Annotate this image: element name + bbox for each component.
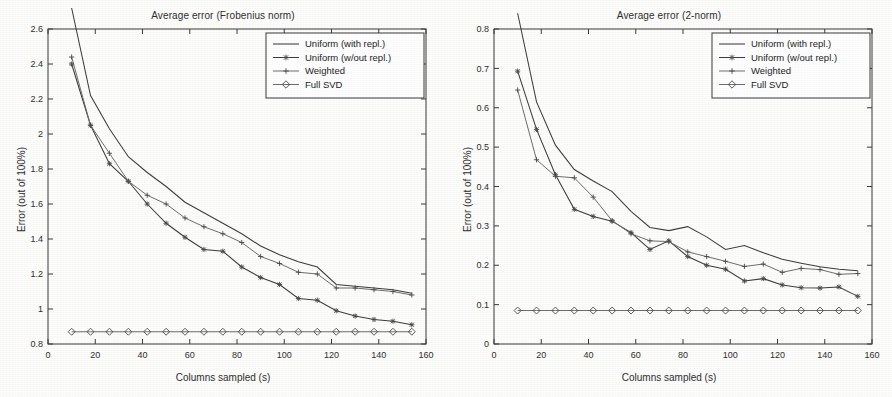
x-tick-label: 80 [232,350,242,360]
legend-label: Uniform (with repl.) [751,38,831,49]
x-tick-label: 140 [371,350,386,360]
y-tick-label: 0.4 [476,182,489,192]
panel-twonorm: Average error (2-norm) 02040608010012014… [446,0,892,397]
legend: Uniform (with repl.)Uniform (w/out repl.… [712,33,870,98]
x-tick-label: 40 [137,350,147,360]
x-tick-label: 20 [90,350,100,360]
plot-area-twonorm: 02040608010012014016000.10.20.30.40.50.6… [446,0,892,397]
series-path [518,90,858,274]
legend-label: Uniform (w/out repl.) [751,52,837,63]
y-tick-label: 2 [38,129,43,139]
x-tick-label: 0 [45,350,50,360]
y-tick-label: 0.1 [476,300,489,310]
x-tick-label: 120 [770,350,785,360]
x-tick-label: 60 [631,350,641,360]
y-tick-label: 1.6 [30,199,43,209]
x-tick-label: 80 [678,350,688,360]
y-axis-label-frobenius: Error (out of 100%) [16,146,27,231]
y-tick-label: 2.6 [30,24,43,34]
y-tick-label: 1.4 [30,234,43,244]
series-path [518,71,858,296]
y-tick-label: 0.2 [476,260,489,270]
y-tick-label: 1.8 [30,164,43,174]
y-axis-label-twonorm: Error (out of 100%) [462,146,473,231]
legend-label: Full SVD [751,79,789,90]
y-tick-label: 1 [38,304,43,314]
legend-label: Weighted [305,65,345,76]
x-axis-label-twonorm: Columns sampled (s) [446,372,892,383]
legend-label: Weighted [751,65,791,76]
y-tick-label: 0.8 [30,339,43,349]
legend: Uniform (with repl.)Uniform (w/out repl.… [266,33,424,98]
x-tick-label: 60 [185,350,195,360]
series-3 [68,328,415,335]
series-3 [514,307,861,314]
x-tick-label: 160 [418,350,433,360]
y-tick-label: 2.4 [30,59,43,69]
series-path [72,64,412,325]
y-tick-label: 0 [484,339,489,349]
x-tick-label: 140 [817,350,832,360]
legend-label: Uniform (with repl.) [305,38,385,49]
x-tick-label: 40 [583,350,593,360]
y-tick-label: 0.5 [476,142,489,152]
y-tick-label: 2.2 [30,94,43,104]
y-tick-label: 0.8 [476,24,489,34]
x-tick-label: 20 [536,350,546,360]
y-tick-label: 0.7 [476,64,489,74]
x-axis-label-frobenius: Columns sampled (s) [0,372,446,383]
x-tick-label: 100 [277,350,292,360]
x-tick-label: 120 [324,350,339,360]
legend-label: Uniform (w/out repl.) [305,52,391,63]
figure-two-panel-error-plots: Average error (Frobenius norm) 020406080… [0,0,892,397]
x-tick-label: 100 [723,350,738,360]
x-tick-label: 160 [864,350,879,360]
legend-label: Full SVD [305,79,343,90]
x-tick-label: 0 [491,350,496,360]
y-tick-label: 0.3 [476,221,489,231]
y-tick-label: 1.2 [30,269,43,279]
plot-area-frobenius: 0204060801001201401600.811.21.41.61.822.… [0,0,446,397]
y-tick-label: 0.6 [476,103,489,113]
series-2 [515,87,860,276]
panel-frobenius: Average error (Frobenius norm) 020406080… [0,0,446,397]
